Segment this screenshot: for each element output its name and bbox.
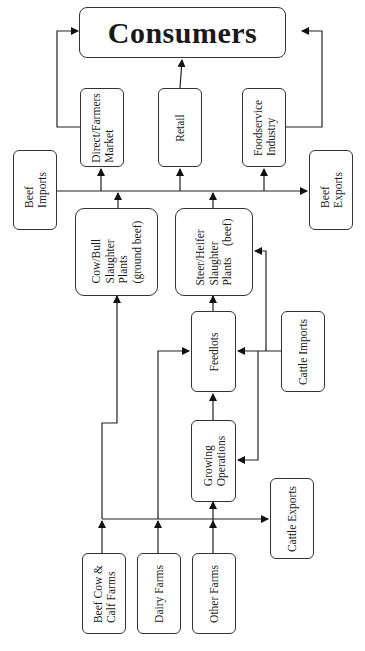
node-label: Foodservice bbox=[252, 99, 265, 155]
other-farms-node: Other Farms bbox=[192, 553, 236, 634]
node-label: Growing bbox=[201, 436, 214, 486]
node-label: Slaughter bbox=[103, 221, 117, 284]
node-label: Beef bbox=[319, 172, 332, 208]
node-label: Calf Farms bbox=[104, 564, 117, 622]
node-label: Feedlots bbox=[207, 332, 220, 371]
beef-cow-calf-farms-node: Beef Cow &Calf Farms bbox=[82, 553, 126, 634]
node-label: Retail bbox=[174, 114, 187, 141]
direct-farmers-market-node: Direct/FarmersMarket bbox=[80, 88, 124, 167]
cow-bull-slaughter-node: Cow/BullSlaughterPlants(ground beef) bbox=[75, 208, 158, 296]
growing-operations-node: GrowingOperations bbox=[191, 420, 236, 502]
node-label: Other Farms bbox=[208, 565, 221, 623]
feedlots-node: Feedlots bbox=[191, 311, 236, 392]
node-label: Steer/Heifer bbox=[194, 218, 208, 285]
node-label: Slaughter bbox=[207, 218, 221, 285]
foodservice-node: FoodserviceIndustry bbox=[242, 88, 286, 167]
cattle-imports-node: Cattle Imports bbox=[281, 311, 325, 392]
retail-node: Retail bbox=[158, 88, 202, 167]
node-label: Beef Cow & bbox=[92, 564, 105, 622]
node-label: Beef bbox=[23, 172, 36, 208]
node-label: Cattle Exports bbox=[286, 485, 299, 551]
cattle-exports-node: Cattle Exports bbox=[270, 478, 314, 559]
node-label: Plants bbox=[117, 221, 131, 284]
node-label: Cow/Bull bbox=[90, 221, 104, 284]
steer-heifer-slaughter-node: Steer/HeiferSlaughterPlants (beef) bbox=[175, 208, 253, 296]
node-label: Market bbox=[102, 93, 115, 163]
beef-exports-node: BeefExports bbox=[309, 150, 353, 230]
node-label: Operations bbox=[214, 436, 227, 486]
beef-imports-node: BeefImports bbox=[13, 150, 57, 230]
node-label: Industry bbox=[264, 99, 277, 155]
node-label: Cattle Imports bbox=[297, 318, 310, 384]
node-label: Exports bbox=[331, 172, 344, 208]
dairy-farms-node: Dairy Farms bbox=[137, 553, 181, 634]
consumers-label: Consumers bbox=[80, 16, 285, 50]
node-label: Imports bbox=[35, 172, 48, 208]
node-label: (ground beef) bbox=[130, 221, 144, 284]
node-label: Dairy Farms bbox=[153, 565, 166, 623]
node-label: Plants (beef) bbox=[221, 218, 235, 285]
node-label: Direct/Farmers bbox=[90, 93, 103, 163]
consumers-node: Consumers bbox=[79, 7, 286, 58]
